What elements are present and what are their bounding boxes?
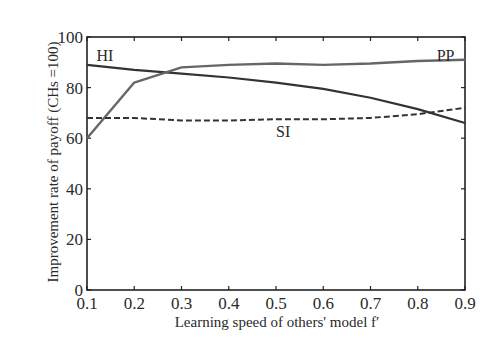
y-tick-label: 20 [66,230,83,249]
x-tick-label: 0.9 [454,294,475,313]
x-tick-label: 0.2 [124,294,145,313]
x-tick-label: 0.4 [218,294,240,313]
x-tick-label: 0.7 [360,294,382,313]
y-tick-label: 40 [66,180,83,199]
y-tick-label: 100 [58,28,84,47]
series-label-pp: PP [437,47,455,64]
series-line-si [87,108,465,121]
y-tick-label: 0 [75,281,84,300]
series-label-hi: HI [96,47,113,64]
line-chart: 0.10.20.30.40.50.60.70.80.9020406080100 … [0,0,502,353]
series-line-hi [87,65,465,123]
axes: 0.10.20.30.40.50.60.70.80.9020406080100 [58,28,476,313]
y-tick-label: 80 [66,79,83,98]
series-label-si: SI [276,123,290,140]
x-tick-label: 0.3 [171,294,192,313]
y-axis-label: Improvement rate of payoff (CHs =100) [45,41,62,282]
x-tick-label: 0.5 [265,294,286,313]
plot-frame [87,37,465,290]
x-tick-label: 0.6 [313,294,334,313]
series-labels: HIPPSI [96,47,454,140]
y-tick-label: 60 [66,129,83,148]
x-tick-label: 0.8 [407,294,428,313]
x-axis-label: Learning speed of others' model f′ [175,314,380,330]
